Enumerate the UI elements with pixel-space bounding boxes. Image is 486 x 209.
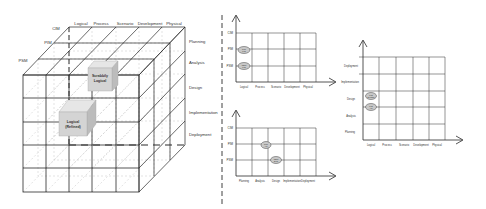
- cube-top-label-logical: Logical: [74, 21, 87, 26]
- chart-top-grid: [236, 33, 316, 82]
- chart-bottom-grid: [236, 128, 316, 176]
- chart-right-axes: [359, 40, 463, 144]
- cube-side-label-analysis: Analysis: [189, 60, 205, 65]
- chart-top-y-label-psm: PSM: [226, 64, 233, 68]
- chart-right-marker-1: Log Design: [366, 93, 377, 100]
- chart-top-marker-1: PIM Log: [238, 47, 250, 54]
- svg-text:Anl: Anl: [369, 107, 373, 109]
- chart-bottom-marker-2: PSM Des: [271, 157, 282, 164]
- cube-side-label-implementation: Implementation: [189, 110, 218, 115]
- chart-bottom: CIM PIM PSM Planning Analysis Design Imp…: [226, 110, 336, 183]
- cube-side-label-planning: Planning: [189, 39, 206, 44]
- chart-top-x-label-logical: Logical: [240, 85, 249, 89]
- cube-depth-label-psm: PSM: [18, 58, 28, 63]
- chart-right-x-label-physical: Physical: [432, 143, 442, 147]
- chart-top-marker-2: PSM Log: [238, 63, 250, 70]
- chart-right-x-label-logical: Logical: [367, 143, 376, 147]
- chart-top-y-label-cim: CIM: [228, 31, 234, 35]
- cube-top-label-development: Development: [138, 21, 164, 26]
- chart-bottom-y-label-cim: CIM: [228, 126, 234, 130]
- chart-bottom-x-label-planning: Planning: [239, 179, 250, 183]
- chart-bottom-y-label-pim: PIM: [228, 142, 234, 146]
- cube-depth-label-cim: CIM: [52, 26, 60, 31]
- cube-block-upper: Scrabbily Logical: [88, 61, 118, 91]
- chart-bottom-x-label-analysis: Analysis: [255, 179, 265, 183]
- cube-depth-label-pim: PIM: [44, 40, 52, 45]
- chart-right-x-label-scenario: Scenario: [399, 143, 410, 147]
- cube-side-label-design: Design: [189, 85, 203, 90]
- chart-right-y-label-planning: Planning: [345, 130, 356, 134]
- cube-side-label-deployment: Deployment: [189, 132, 212, 137]
- chart-top: CIM PIM PSM Logical Process Scenario Dev…: [226, 15, 336, 89]
- cube-top-label-scenario: Scenario: [117, 21, 134, 26]
- cube-3d: Scrabbily Logical Logical (Refined) CIM …: [18, 21, 218, 192]
- chart-right: Deployment Implementation Design Analysi…: [341, 40, 463, 147]
- chart-right-y-label-analysis: Analysis: [346, 114, 356, 118]
- svg-text:Design: Design: [368, 96, 376, 98]
- chart-right-y-label-deployment: Deployment: [344, 64, 358, 68]
- chart-right-marker-2: Log Anl: [366, 104, 377, 111]
- cube-block-lower-line1: Logical: [67, 120, 80, 124]
- chart-right-y-label-design: Design: [347, 97, 356, 101]
- chart-top-y-label-pim: PIM: [228, 47, 234, 51]
- chart-bottom-x-label-design: Design: [272, 179, 281, 183]
- chart-top-x-label-process: Process: [255, 85, 265, 89]
- chart-bottom-x-label-deployment: Deployment: [301, 179, 315, 183]
- chart-top-x-label-physical: Physical: [303, 85, 313, 89]
- cube-block-lower-line2: (Refined): [65, 125, 81, 129]
- cube-block-upper-line1: Scrabbily: [92, 74, 108, 78]
- cube-hidden-grid: [23, 27, 185, 192]
- chart-top-x-label-development: Development: [284, 85, 300, 89]
- chart-bottom-marker-1: PIM Anl: [261, 142, 271, 149]
- chart-bottom-y-label-psm: PSM: [226, 158, 233, 162]
- chart-right-y-label-implementation: Implementation: [341, 80, 359, 84]
- cube-top-label-process: Process: [93, 21, 108, 26]
- diagram-canvas: Scrabbily Logical Logical (Refined) CIM …: [0, 0, 486, 209]
- svg-text:Anl: Anl: [264, 145, 268, 147]
- cube-block-upper-line2: Logical: [94, 79, 107, 83]
- cube-top-label-physical: Physical: [166, 21, 182, 26]
- chart-top-x-label-scenario: Scenario: [271, 85, 282, 89]
- chart-bottom-x-label-implementation: Implementation: [283, 179, 301, 183]
- chart-right-x-label-development: Development: [413, 143, 429, 147]
- chart-right-x-label-process: Process: [382, 143, 392, 147]
- cube-block-lower: Logical (Refined): [59, 100, 96, 136]
